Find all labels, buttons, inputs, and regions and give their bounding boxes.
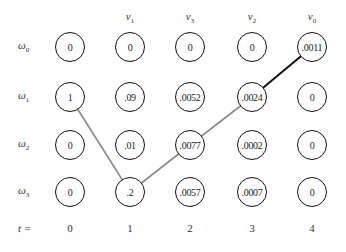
time-step-4: 4 [309, 222, 315, 234]
trellis-node-r1-c0: 1 [55, 82, 85, 112]
best-path-edges [0, 0, 346, 252]
time-step-0: 0 [67, 222, 73, 234]
trellis-node-r0-c3: 0 [237, 32, 267, 62]
trellis-node-r3-c0: 0 [55, 177, 85, 207]
trellis-diagram: ω0ω1ω2ω3v1v3v2v00000.00111.09.0052.00240… [0, 0, 346, 252]
trellis-node-r2-c3: .0002 [237, 130, 267, 160]
state-label-2: ω2 [18, 137, 29, 152]
state-label-0: ω0 [18, 39, 29, 54]
trellis-node-r1-c1: .09 [115, 82, 145, 112]
trellis-node-r0-c1: 0 [115, 32, 145, 62]
trellis-node-r2-c1: .01 [115, 130, 145, 160]
trellis-node-r3-c4: 0 [297, 177, 327, 207]
trellis-node-r2-c0: 0 [55, 130, 85, 160]
time-step-1: 1 [127, 222, 133, 234]
trellis-node-r0-c2: 0 [175, 32, 205, 62]
trellis-node-r1-c2: .0052 [175, 82, 205, 112]
trellis-node-r2-c4: 0 [297, 130, 327, 160]
trellis-node-r2-c2: .0077 [175, 130, 205, 160]
state-label-1: ω1 [18, 89, 29, 104]
trellis-node-r0-c0: 0 [55, 32, 85, 62]
time-step-2: 2 [187, 222, 193, 234]
observation-label-2: v3 [186, 10, 194, 25]
trellis-node-r1-c4: 0 [297, 82, 327, 112]
trellis-node-r3-c2: .0057 [175, 177, 205, 207]
observation-label-3: v2 [248, 10, 256, 25]
state-label-3: ω3 [18, 184, 29, 199]
observation-label-4: v0 [308, 10, 316, 25]
time-step-3: 3 [249, 222, 255, 234]
trellis-node-r0-c4: .0011 [297, 32, 327, 62]
time-axis-label: t = [18, 222, 31, 234]
observation-label-1: v1 [126, 10, 134, 25]
trellis-node-r3-c1: .2 [115, 177, 145, 207]
trellis-node-r1-c3: .0024 [237, 82, 267, 112]
trellis-node-r3-c3: .0007 [237, 177, 267, 207]
